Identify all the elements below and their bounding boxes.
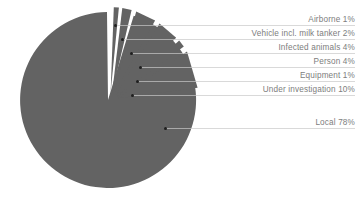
marker-dot-airborne [114, 24, 117, 27]
label-infected-animals: Infected animals 4% [278, 43, 355, 52]
pie-chart-figure: Airborne 1% Vehicle incl. milk tanker 2%… [0, 0, 360, 197]
label-under-investigation: Under investigation 10% [263, 85, 355, 94]
label-vehicle: Vehicle incl. milk tanker 2% [252, 29, 355, 38]
label-local: Local 78% [315, 118, 355, 127]
marker-dot-equipment [136, 80, 139, 83]
marker-dot-local [164, 127, 167, 130]
marker-dot-under-investigation [131, 94, 134, 97]
marker-dot-vehicle [121, 38, 124, 41]
label-airborne: Airborne 1% [308, 15, 355, 24]
label-person: Person 4% [314, 57, 355, 66]
pie-chart-canvas: Airborne 1% Vehicle incl. milk tanker 2%… [0, 0, 360, 197]
label-equipment: Equipment 1% [300, 71, 355, 80]
marker-dot-infected-animals [130, 52, 133, 55]
marker-dot-person [139, 66, 142, 69]
